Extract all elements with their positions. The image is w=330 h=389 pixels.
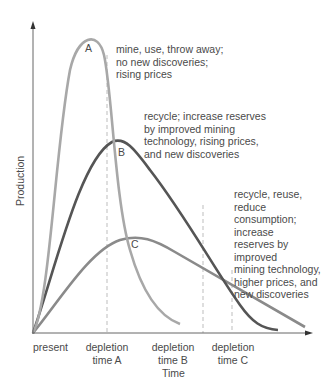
- x-axis-arrow-icon: [305, 331, 313, 336]
- tick-present: present: [33, 341, 73, 354]
- y-axis-label: Production: [14, 156, 26, 206]
- tick-depletion-a: depletion time A: [82, 341, 132, 366]
- x-axis-label: Time: [162, 367, 185, 379]
- curve-c-label: C: [131, 238, 139, 250]
- annotation-b: recycle; increase reserves by improved m…: [144, 110, 266, 160]
- curve-b-label: B: [118, 146, 125, 158]
- tick-depletion-c: depletion time C: [208, 341, 258, 366]
- tick-depletion-b: depletion time B: [148, 341, 198, 366]
- annotation-a: mine, use, throw away; no new discoverie…: [116, 43, 223, 81]
- curve-a-label: A: [85, 42, 92, 54]
- y-axis-arrow-icon: [31, 21, 36, 29]
- annotation-c: recycle, reuse, reduce consumption; incr…: [234, 188, 330, 301]
